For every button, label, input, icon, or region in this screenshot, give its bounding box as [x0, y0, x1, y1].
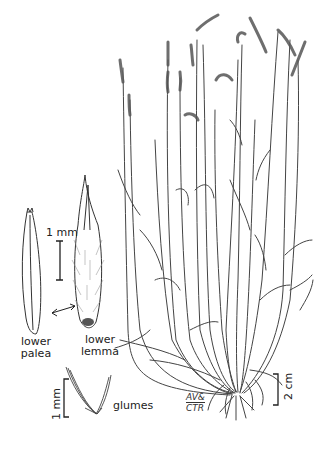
artist-signature: AV& CTR: [186, 392, 205, 413]
lower-palea-label: lower palea: [14, 336, 58, 360]
glume-scale-label: 1 mm: [50, 388, 63, 420]
plant-illustration: [0, 0, 325, 450]
spikelet-scale-label: 1 mm: [46, 227, 78, 239]
lower-lemma-label: lower lemma: [78, 334, 122, 358]
plant-scale-label: 2 cm: [282, 373, 295, 400]
glumes-label: glumes: [113, 400, 153, 412]
